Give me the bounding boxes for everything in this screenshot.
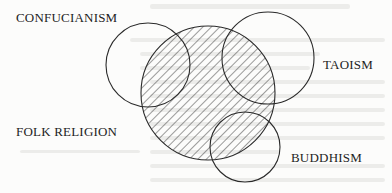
label-confucianism: CONFUCIANISM [16, 11, 117, 24]
scanned-page: CONFUCIANISM TAOISM FOLK RELIGION BUDDHI… [0, 0, 392, 193]
circle-folk-religion [141, 26, 275, 160]
label-folk-religion: FOLK RELIGION [16, 125, 117, 138]
label-taoism: TAOISM [323, 58, 373, 71]
label-buddhism: BUDDHISM [291, 151, 362, 164]
